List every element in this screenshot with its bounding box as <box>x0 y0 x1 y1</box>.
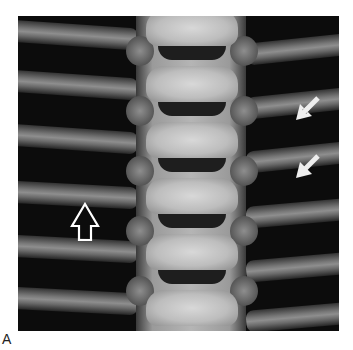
rib <box>18 287 138 316</box>
pedicle <box>126 96 154 126</box>
rib <box>245 251 339 283</box>
rib <box>245 86 339 119</box>
panel-label: A <box>2 331 11 347</box>
vertebral-body <box>146 66 238 102</box>
open-arrow-icon <box>70 202 100 242</box>
pedicle <box>230 156 258 186</box>
disc-space <box>158 214 226 228</box>
rib <box>18 19 139 50</box>
pedicle <box>230 96 258 126</box>
vertebral-body <box>146 234 238 270</box>
disc-space <box>158 270 226 284</box>
vertebral-body <box>146 290 238 326</box>
xray-image <box>18 16 339 331</box>
vertebral-body <box>146 16 238 46</box>
solid-arrow-icon <box>294 154 320 180</box>
rib <box>18 69 139 100</box>
disc-space <box>158 102 226 116</box>
rib <box>245 140 339 173</box>
rib <box>245 197 339 229</box>
pedicle <box>126 156 154 186</box>
rib <box>18 123 139 154</box>
solid-arrow-icon <box>294 96 320 122</box>
rib <box>245 32 339 65</box>
vertebral-body <box>146 178 238 214</box>
disc-space <box>158 158 226 172</box>
disc-space <box>158 46 226 60</box>
vertebral-body <box>146 122 238 158</box>
rib <box>245 301 339 331</box>
